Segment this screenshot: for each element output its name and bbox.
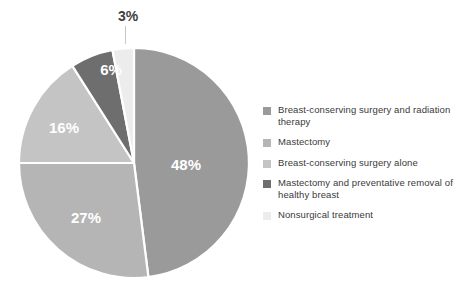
slice-value-label-2: 16% [49,119,79,136]
legend-item[interactable]: Mastectomy [263,136,455,148]
legend-item-label: Breast-conserving surgery and radiation … [278,104,455,127]
legend-swatch-icon [263,212,271,220]
slice-value-label-4: 3% [118,8,139,24]
legend-swatch-icon [263,180,271,188]
legend-item[interactable]: Breast-conserving surgery and radiation … [263,104,455,127]
legend-item-label: Mastectomy and preventative removal of h… [278,177,455,200]
legend-swatch-icon [263,139,271,147]
slice-value-label-0: 48% [171,156,201,173]
slice-value-label-3: 6% [100,61,122,78]
legend-item[interactable]: Breast-conserving surgery alone [263,157,455,169]
slice-value-label-1: 27% [71,209,101,226]
legend-item[interactable]: Mastectomy and preventative removal of h… [263,177,455,200]
legend-item-label: Breast-conserving surgery alone [278,157,418,169]
legend-item-label: Mastectomy [278,136,330,148]
legend-swatch-icon [263,107,271,115]
chart-legend: Breast-conserving surgery and radiation … [263,104,455,230]
legend-swatch-icon [263,160,271,168]
legend-item[interactable]: Nonsurgical treatment [263,209,455,221]
legend-item-label: Nonsurgical treatment [278,209,373,221]
pie-slices [19,48,249,278]
pie-chart-figure: 48% 27% 16% 6% 3% Breast-conserving surg… [0,0,458,306]
